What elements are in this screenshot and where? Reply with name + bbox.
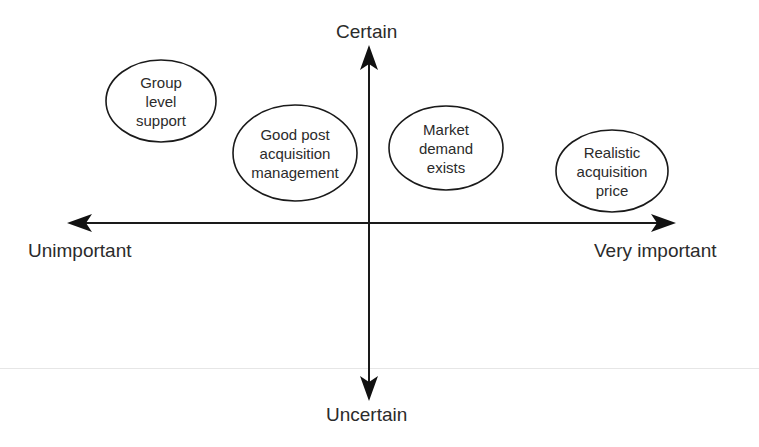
quadrant-diagram — [0, 0, 759, 447]
node-good-post-acquisition-management: Good post acquisition management — [251, 125, 339, 182]
node-line: demand — [419, 139, 473, 158]
label-unimportant: Unimportant — [28, 241, 132, 260]
label-very-important: Very important — [594, 241, 717, 260]
node-market-demand-exists: Market demand exists — [419, 120, 473, 177]
node-line: exists — [419, 158, 473, 177]
node-realistic-acquisition-price: Realistic acquisition price — [577, 143, 648, 200]
node-line: management — [251, 163, 339, 182]
node-line: acquisition — [577, 162, 648, 181]
node-group-level-support: Group level support — [136, 73, 186, 130]
node-line: Market — [419, 120, 473, 139]
node-line: acquisition — [251, 144, 339, 163]
node-line: price — [577, 181, 648, 200]
node-line: Good post — [251, 125, 339, 144]
node-line: Group — [136, 73, 186, 92]
label-uncertain: Uncertain — [326, 405, 407, 424]
node-line: support — [136, 111, 186, 130]
node-line: Realistic — [577, 143, 648, 162]
node-line: level — [136, 92, 186, 111]
label-certain: Certain — [336, 22, 397, 41]
